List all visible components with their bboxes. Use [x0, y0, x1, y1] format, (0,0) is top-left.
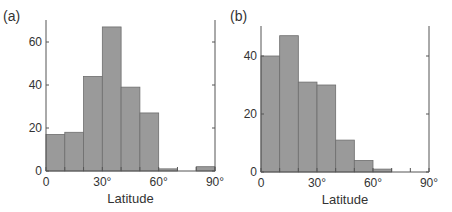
histogram-panel-a: (a) 030°60°90°0204060Latitude: [0, 0, 226, 212]
svg-text:60°: 60°: [150, 175, 168, 189]
svg-text:90°: 90°: [420, 176, 438, 190]
histogram-bar: [102, 27, 121, 171]
x-axis-label: Latitude: [322, 192, 368, 207]
histogram-panel-b: (b) 030°60°90°02040Latitude: [226, 0, 452, 212]
histogram-bar: [280, 36, 299, 172]
histogram-bar: [46, 134, 65, 171]
svg-text:30°: 30°: [93, 175, 111, 189]
histogram-bar: [140, 113, 159, 171]
svg-text:0: 0: [258, 176, 265, 190]
svg-text:0: 0: [35, 164, 42, 178]
x-axis-label: Latitude: [107, 191, 153, 206]
svg-text:40: 40: [244, 49, 258, 63]
svg-text:40: 40: [29, 78, 43, 92]
histogram-bar: [84, 76, 103, 171]
histogram-bar: [354, 160, 373, 172]
svg-text:0: 0: [43, 175, 50, 189]
svg-text:90°: 90°: [206, 175, 224, 189]
svg-text:20: 20: [29, 121, 43, 135]
svg-text:60: 60: [29, 35, 43, 49]
histogram-a: 030°60°90°0204060Latitude: [0, 0, 226, 212]
svg-text:20: 20: [244, 107, 258, 121]
histogram-bar: [196, 167, 215, 171]
svg-text:0: 0: [250, 165, 257, 179]
histogram-bar: [336, 140, 355, 172]
histogram-bar: [65, 132, 84, 171]
svg-text:60°: 60°: [364, 176, 382, 190]
histogram-bar: [317, 85, 336, 172]
svg-text:30°: 30°: [308, 176, 326, 190]
histogram-bar: [298, 82, 317, 172]
histogram-bar: [121, 87, 140, 171]
histogram-b: 030°60°90°02040Latitude: [226, 0, 452, 212]
